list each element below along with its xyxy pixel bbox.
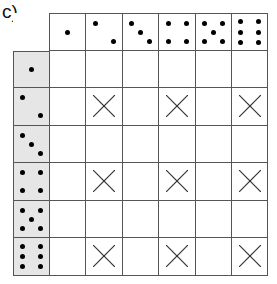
corner-empty <box>13 13 50 51</box>
table-cell <box>123 163 159 201</box>
pip-icon <box>20 208 25 213</box>
table-cell <box>196 201 232 238</box>
pip-icon <box>166 21 171 26</box>
cross-icon <box>93 170 115 192</box>
table-cell <box>232 51 268 88</box>
pip-icon <box>65 30 70 35</box>
table-cell <box>86 163 123 201</box>
table-cell <box>159 51 196 88</box>
table-cell <box>50 163 86 201</box>
table-cell <box>196 238 232 276</box>
pip-icon <box>256 40 261 45</box>
pip-icon <box>38 208 43 213</box>
pip-icon <box>38 244 43 249</box>
pip-icon <box>20 170 25 175</box>
cross-icon <box>93 245 115 267</box>
pip-icon <box>184 39 189 44</box>
pip-icon <box>20 254 25 259</box>
table-cell <box>50 51 86 88</box>
pip-icon <box>29 217 34 222</box>
table-cell <box>86 88 123 126</box>
pip-icon <box>256 19 261 24</box>
pip-icon <box>29 142 34 147</box>
row-header-die-1 <box>13 51 50 88</box>
cross-icon <box>239 245 261 267</box>
pip-icon <box>38 151 43 156</box>
pip-icon <box>202 21 207 26</box>
pip-icon <box>238 40 243 45</box>
cross-icon <box>239 170 261 192</box>
table-cell <box>86 126 123 163</box>
table-cell <box>86 238 123 276</box>
column-header-die-2 <box>86 13 123 51</box>
table-cell <box>159 126 196 163</box>
table-cell <box>123 51 159 88</box>
row-header-die-5 <box>13 201 50 238</box>
table-cell <box>86 51 123 88</box>
column-header-die-5 <box>196 13 232 51</box>
table-cell <box>159 238 196 276</box>
table-cell <box>50 201 86 238</box>
cross-icon <box>166 95 188 117</box>
pip-icon <box>111 39 116 44</box>
pip-icon <box>20 244 25 249</box>
pip-icon <box>20 133 25 138</box>
table-cell <box>232 201 268 238</box>
pip-icon <box>93 21 98 26</box>
table-cell <box>123 238 159 276</box>
row-header-die-2 <box>13 88 50 126</box>
column-header-die-4 <box>159 13 196 51</box>
table-cell <box>196 126 232 163</box>
table-cell <box>196 88 232 126</box>
cross-icon <box>166 170 188 192</box>
table-cell <box>123 126 159 163</box>
pip-icon <box>20 226 25 231</box>
table-cell <box>232 88 268 126</box>
pip-icon <box>138 30 143 35</box>
pip-icon <box>166 39 171 44</box>
pip-icon <box>211 30 216 35</box>
pip-icon <box>129 21 134 26</box>
table-cell <box>196 163 232 201</box>
table-cell <box>50 238 86 276</box>
column-header-die-1 <box>50 13 86 51</box>
pip-icon <box>256 30 261 35</box>
column-header-die-3 <box>123 13 159 51</box>
cross-icon <box>93 95 115 117</box>
row-header-die-6 <box>13 238 50 276</box>
dice-product-table <box>13 13 268 276</box>
pip-icon <box>220 21 225 26</box>
table-cell <box>50 88 86 126</box>
pip-icon <box>38 188 43 193</box>
pip-icon <box>220 39 225 44</box>
pip-icon <box>38 170 43 175</box>
row-header-die-3 <box>13 126 50 163</box>
pip-icon <box>202 39 207 44</box>
pip-icon <box>184 21 189 26</box>
column-header-die-6 <box>232 13 268 51</box>
pip-icon <box>147 39 152 44</box>
table-cell <box>123 201 159 238</box>
pip-icon <box>20 188 25 193</box>
pip-icon <box>38 226 43 231</box>
row-header-die-4 <box>13 163 50 201</box>
table-cell <box>232 238 268 276</box>
pip-icon <box>38 113 43 118</box>
pip-icon <box>38 264 43 269</box>
table-cell <box>86 201 123 238</box>
table-cell <box>159 163 196 201</box>
table-cell <box>123 88 159 126</box>
table-cell <box>50 126 86 163</box>
pip-icon <box>29 67 34 72</box>
pip-icon <box>238 19 243 24</box>
pip-icon <box>38 254 43 259</box>
pip-icon <box>20 95 25 100</box>
table-cell <box>159 201 196 238</box>
pip-icon <box>20 264 25 269</box>
pip-icon <box>238 30 243 35</box>
table-cell <box>232 163 268 201</box>
cross-icon <box>239 95 261 117</box>
table-cell <box>196 51 232 88</box>
table-cell <box>159 88 196 126</box>
cross-icon <box>166 245 188 267</box>
